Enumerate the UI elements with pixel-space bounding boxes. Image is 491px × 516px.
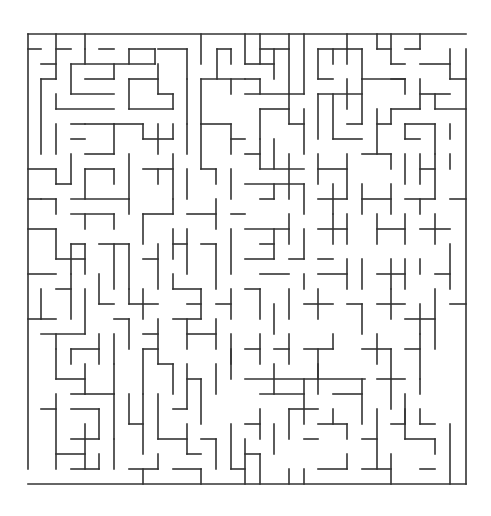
maze-canvas <box>0 0 491 516</box>
